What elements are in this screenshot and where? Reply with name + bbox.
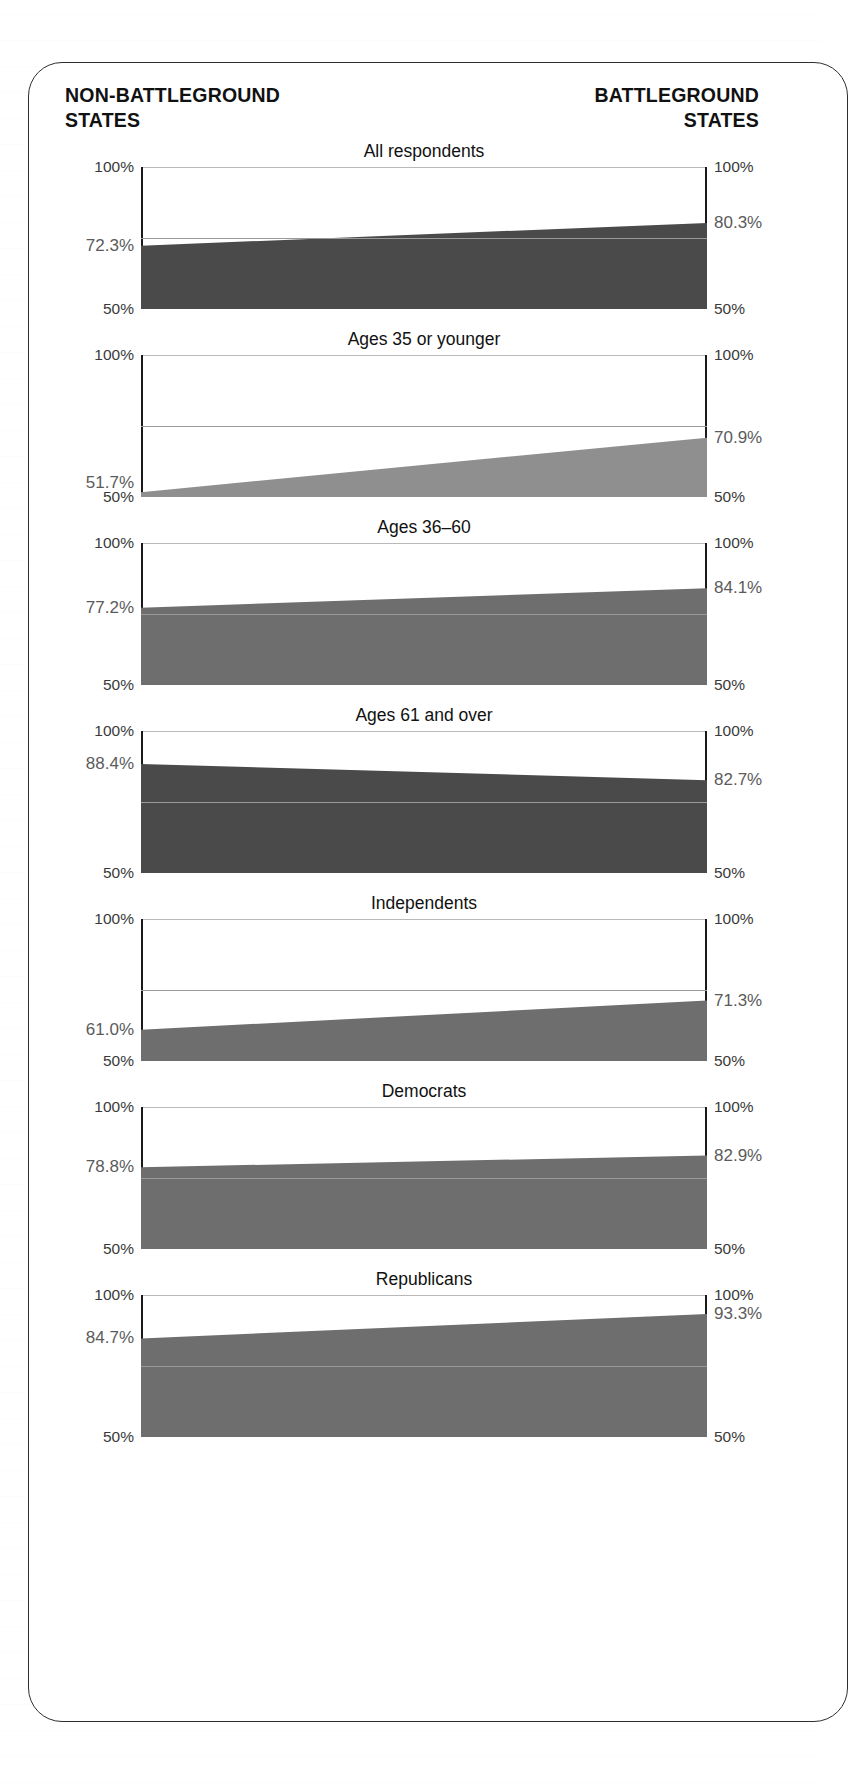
axis-tick-left-bottom: 50% — [103, 1052, 134, 1070]
axis-tick-right-top: 100% — [714, 722, 754, 740]
chart-value-label-left: 84.7% — [86, 1328, 134, 1348]
axis-tick-left-bottom: 50% — [103, 676, 134, 694]
chart-gridline — [141, 802, 707, 803]
header-battleground: BATTLEGROUND STATES — [459, 83, 759, 133]
axis-tick-left-top: 100% — [94, 910, 134, 928]
chart-panel: All respondents100%50%100%50%72.3%80.3% — [29, 141, 819, 329]
chart-value-label-left: 61.0% — [86, 1020, 134, 1040]
axis-tick-left-top: 100% — [94, 1286, 134, 1304]
header-non-battleground: NON-BATTLEGROUND STATES — [65, 83, 280, 133]
chart-value-label-left: 51.7% — [86, 473, 134, 493]
axis-tick-left-bottom: 50% — [103, 864, 134, 882]
axis-tick-right-bottom: 50% — [714, 1240, 745, 1258]
axis-tick-right-top: 100% — [714, 158, 754, 176]
chart-value-label-right: 82.9% — [714, 1146, 762, 1166]
chart-panel: Republicans100%50%100%50%84.7%93.3% — [29, 1269, 819, 1457]
chart-value-label-right: 82.7% — [714, 770, 762, 790]
chart-panel-title: Independents — [141, 893, 707, 915]
header-non-battleground-line2: STATES — [65, 108, 280, 133]
chart-value-label-right: 80.3% — [714, 213, 762, 233]
chart-value-label-left: 88.4% — [86, 754, 134, 774]
chart-value-label-right: 70.9% — [714, 428, 762, 448]
axis-tick-left-top: 100% — [94, 346, 134, 364]
chart-panel-title: All respondents — [141, 141, 707, 163]
axis-tick-right-top: 100% — [714, 346, 754, 364]
header-battleground-line2: STATES — [459, 108, 759, 133]
chart-panel-title: Republicans — [141, 1269, 707, 1291]
axis-tick-right-top: 100% — [714, 910, 754, 928]
chart-gridline — [141, 238, 707, 239]
chart-panel-title: Ages 61 and over — [141, 705, 707, 727]
axis-tick-right-bottom: 50% — [714, 1428, 745, 1446]
axis-tick-left-bottom: 50% — [103, 300, 134, 318]
chart-plot-area: 100%50%100%50%77.2%84.1% — [141, 543, 707, 685]
axis-tick-right-top: 100% — [714, 1286, 754, 1304]
chart-panel: Independents100%50%100%50%61.0%71.3% — [29, 893, 819, 1081]
chart-plot-area: 100%50%100%50%72.3%80.3% — [141, 167, 707, 309]
chart-value-label-right: 93.3% — [714, 1304, 762, 1324]
chart-panel-title: Democrats — [141, 1081, 707, 1103]
axis-tick-left-bottom: 50% — [103, 1428, 134, 1446]
axis-tick-right-bottom: 50% — [714, 488, 745, 506]
chart-panel-title: Ages 35 or younger — [141, 329, 707, 351]
chart-gridline — [141, 614, 707, 615]
chart-value-label-left: 77.2% — [86, 598, 134, 618]
axis-tick-right-bottom: 50% — [714, 676, 745, 694]
axis-tick-right-bottom: 50% — [714, 1052, 745, 1070]
axis-tick-right-bottom: 50% — [714, 300, 745, 318]
chart-plot-area: 100%50%100%50%51.7%70.9% — [141, 355, 707, 497]
chart-panel: Ages 61 and over100%50%100%50%88.4%82.7% — [29, 705, 819, 893]
figure-card-inner: NON-BATTLEGROUND STATES BATTLEGROUND STA… — [29, 63, 847, 1721]
chart-gridline — [141, 1366, 707, 1367]
axis-tick-left-bottom: 50% — [103, 1240, 134, 1258]
chart-panel-title: Ages 36–60 — [141, 517, 707, 539]
chart-plot-area: 100%50%100%50%78.8%82.9% — [141, 1107, 707, 1249]
axis-tick-left-top: 100% — [94, 722, 134, 740]
header-battleground-line1: BATTLEGROUND — [459, 83, 759, 108]
axis-tick-left-top: 100% — [94, 534, 134, 552]
chart-value-label-left: 72.3% — [86, 236, 134, 256]
axis-tick-right-top: 100% — [714, 534, 754, 552]
chart-panel: Democrats100%50%100%50%78.8%82.9% — [29, 1081, 819, 1269]
chart-value-label-right: 84.1% — [714, 578, 762, 598]
axis-tick-right-bottom: 50% — [714, 864, 745, 882]
header-non-battleground-line1: NON-BATTLEGROUND — [65, 83, 280, 108]
chart-value-label-left: 78.8% — [86, 1157, 134, 1177]
chart-panel: Ages 36–60100%50%100%50%77.2%84.1% — [29, 517, 819, 705]
chart-gridline — [141, 1178, 707, 1179]
figure-card: NON-BATTLEGROUND STATES BATTLEGROUND STA… — [28, 62, 848, 1722]
chart-gridline — [141, 990, 707, 991]
chart-plot-area: 100%50%100%50%84.7%93.3% — [141, 1295, 707, 1437]
chart-plot-area: 100%50%100%50%88.4%82.7% — [141, 731, 707, 873]
chart-panel: Ages 35 or younger100%50%100%50%51.7%70.… — [29, 329, 819, 517]
chart-gridline — [141, 426, 707, 427]
axis-tick-right-top: 100% — [714, 1098, 754, 1116]
chart-value-label-right: 71.3% — [714, 991, 762, 1011]
axis-tick-left-top: 100% — [94, 1098, 134, 1116]
chart-plot-area: 100%50%100%50%61.0%71.3% — [141, 919, 707, 1061]
axis-tick-left-top: 100% — [94, 158, 134, 176]
